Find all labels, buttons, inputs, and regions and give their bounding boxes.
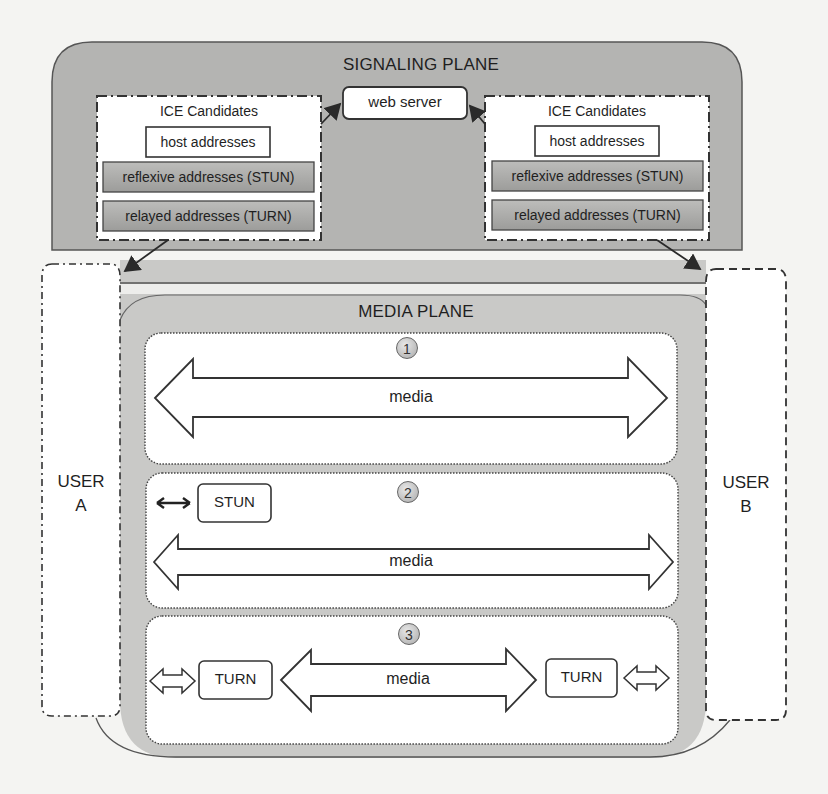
scenario-3-number-badge: 3 — [398, 623, 420, 645]
relayed-addresses-right-label: relayed addresses (TURN) — [492, 207, 703, 223]
signaling-plane-title: SIGNALING PLANE — [321, 55, 521, 75]
scenario-3-media-label: media — [358, 670, 458, 688]
user-b-label: USER B — [706, 471, 786, 519]
scenario-3-turn-left-label: TURN — [199, 670, 272, 687]
ice-candidates-right-title: ICE Candidates — [485, 103, 709, 119]
user-a-label: USER A — [42, 470, 120, 518]
relayed-addresses-left-label: relayed addresses (TURN) — [103, 208, 314, 224]
ice-candidates-left-title: ICE Candidates — [97, 103, 321, 119]
reflexive-addresses-right-label: reflexive addresses (STUN) — [492, 168, 703, 184]
user-a-line2: A — [42, 494, 120, 518]
web-server-label: web server — [343, 93, 467, 110]
host-addresses-right-label: host addresses — [535, 133, 659, 149]
user-a-line1: USER — [42, 470, 120, 494]
reflexive-addresses-left-label: reflexive addresses (STUN) — [103, 169, 314, 185]
user-b-line2: B — [706, 495, 786, 519]
scenario-2-media-label: media — [361, 552, 461, 570]
scenario-2-stun-label: STUN — [198, 493, 271, 510]
scenario-1-media-label: media — [361, 388, 461, 406]
scenario-1-number-badge: 1 — [396, 337, 418, 359]
plane-gap — [120, 284, 706, 294]
media-plane-title: MEDIA PLANE — [316, 302, 516, 322]
scenario-3-turn-right-label: TURN — [546, 668, 617, 685]
scenario-2-number-badge: 2 — [397, 481, 419, 503]
user-b-line1: USER — [706, 471, 786, 495]
host-addresses-left-label: host addresses — [146, 134, 270, 150]
